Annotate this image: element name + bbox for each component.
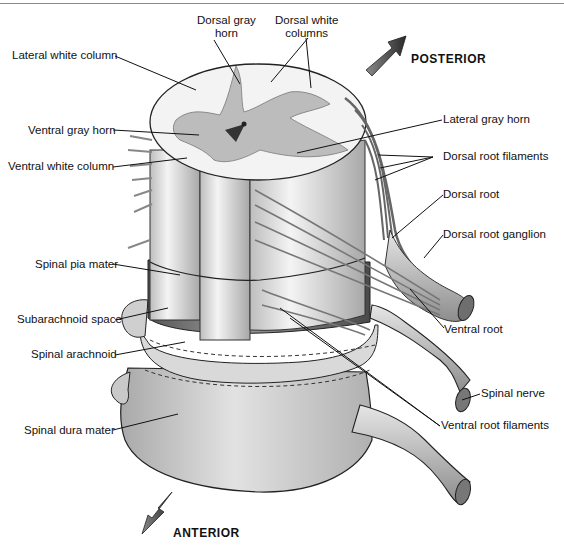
label-dorsal-root-ganglion: Dorsal root ganglion <box>443 228 546 241</box>
label-anterior: ANTERIOR <box>173 526 240 540</box>
label-spinal-dura-mater: Spinal dura mater <box>24 424 115 437</box>
left-root-filaments <box>128 136 152 248</box>
dorsal-root-ganglion-shape <box>385 230 470 321</box>
cross-section <box>150 64 366 180</box>
label-dorsal-gray-horn: Dorsal gray horn <box>197 14 256 40</box>
anterior-arrow-icon <box>142 492 172 534</box>
dura-mater-shape <box>111 368 473 506</box>
posterior-arrow-icon <box>366 36 406 76</box>
label-lateral-white-column: Lateral white column <box>12 49 117 62</box>
label-posterior: POSTERIOR <box>411 52 486 66</box>
label-ventral-root-filaments: Ventral root filaments <box>441 419 549 432</box>
label-lateral-gray-horn: Lateral gray horn <box>443 113 530 126</box>
label-subarachnoid-space: Subarachnoid space <box>17 313 122 326</box>
label-ventral-gray-horn: Ventral gray horn <box>28 124 116 137</box>
spinal-cord-illustration <box>0 0 564 554</box>
label-dorsal-root: Dorsal root <box>443 188 499 201</box>
label-ventral-white-column: Ventral white column <box>8 160 114 173</box>
label-spinal-arachnoid: Spinal arachnoid <box>31 348 117 361</box>
label-spinal-nerve: Spinal nerve <box>481 387 545 400</box>
label-dorsal-white-columns: Dorsal white columns <box>275 14 338 40</box>
label-spinal-pia-mater: Spinal pia mater <box>35 258 118 271</box>
label-ventral-root: Ventral root <box>444 323 503 336</box>
label-dorsal-root-filaments: Dorsal root filaments <box>443 150 548 163</box>
